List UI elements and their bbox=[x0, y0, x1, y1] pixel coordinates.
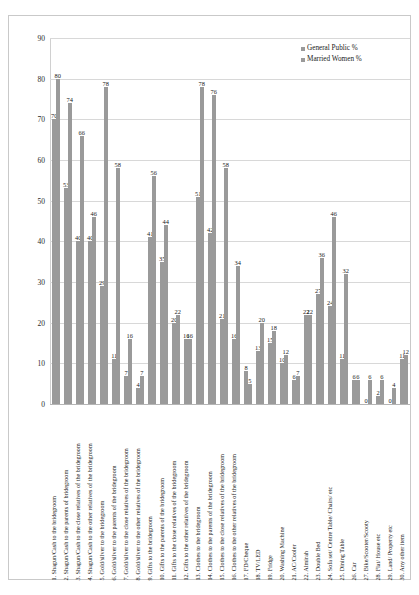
y-axis-tick-label: 70 bbox=[38, 115, 46, 124]
bar-value-label: 74 bbox=[67, 96, 73, 103]
category-label: 29. Land/ Property etc bbox=[388, 526, 395, 581]
category-label: 14. Clothes to the parents of the brideg… bbox=[208, 472, 215, 581]
bar-value-label: 34 bbox=[235, 259, 241, 266]
bar: 58 bbox=[224, 168, 228, 404]
bar: 44 bbox=[164, 225, 168, 404]
bar-value-label: 44 bbox=[163, 218, 169, 225]
bar: 16 bbox=[128, 339, 132, 404]
bar-group: 47 bbox=[134, 38, 146, 404]
bar-group: 85 bbox=[242, 38, 254, 404]
bar-group: 66 bbox=[350, 38, 362, 404]
bar: 12 bbox=[404, 355, 408, 404]
category-label: 20. Washing Machine bbox=[280, 527, 287, 581]
bar-group: 2022 bbox=[170, 38, 182, 404]
category-label: 23. Double Bed bbox=[316, 542, 323, 581]
bar: 78 bbox=[200, 87, 204, 404]
bar: 6 bbox=[368, 380, 372, 404]
bar-group: 1616 bbox=[182, 38, 194, 404]
bar-value-label: 4 bbox=[392, 381, 395, 388]
category-label: 18. TV/LED bbox=[256, 550, 263, 581]
bar-group: 4156 bbox=[146, 38, 158, 404]
bar-value-label: 46 bbox=[91, 210, 97, 217]
gridline bbox=[50, 404, 410, 405]
category-label: 13. Clothes to the bridegroom bbox=[196, 507, 203, 581]
category-label: 9. Gifts to the bridegroom bbox=[148, 517, 155, 581]
category-label: 16. Clothes to the other relatives of th… bbox=[232, 454, 239, 581]
bar-value-label: 58 bbox=[223, 161, 229, 168]
bar-group: 5374 bbox=[62, 38, 74, 404]
bar-value-label: 76 bbox=[211, 88, 217, 95]
bar-group: 4046 bbox=[86, 38, 98, 404]
category-labels: 1. Shagun/Cash to the bridegroom2. Shagu… bbox=[50, 406, 410, 581]
bar-group: 26 bbox=[374, 38, 386, 404]
bar: 58 bbox=[116, 168, 120, 404]
category-label: 5. Gold/silver to the bridegroom bbox=[100, 501, 107, 581]
chart-page: General Public % Married Women % 0102030… bbox=[0, 0, 419, 595]
bar: 76 bbox=[212, 95, 216, 404]
y-axis-tick-label: 20 bbox=[38, 318, 46, 327]
bar: 6 bbox=[356, 380, 360, 404]
category-label: 27. Bike/Scooter/Scooty bbox=[364, 521, 371, 582]
bar: 32 bbox=[344, 274, 348, 404]
bar-group: 04 bbox=[386, 38, 398, 404]
category-label: 10. Gifts to the parents of the bridegro… bbox=[160, 478, 167, 581]
bar-value-label: 22 bbox=[307, 308, 313, 315]
bar: 18 bbox=[272, 331, 276, 404]
bar: 66 bbox=[80, 136, 84, 404]
bar-value-label: 46 bbox=[331, 210, 337, 217]
bar-value-label: 5 bbox=[248, 377, 251, 384]
bar-group: 4066 bbox=[74, 38, 86, 404]
bar-value-label: 7 bbox=[140, 369, 143, 376]
bar-group: 716 bbox=[122, 38, 134, 404]
category-label: 8. Gold/silver to the other relatives of… bbox=[136, 449, 143, 581]
y-axis-tick-label: 40 bbox=[38, 237, 46, 246]
bar-group: 1132 bbox=[338, 38, 350, 404]
bar-group: 2978 bbox=[98, 38, 110, 404]
bar-group: 5178 bbox=[194, 38, 206, 404]
bar: 36 bbox=[320, 258, 324, 404]
category-label: 21. AC/Cooler bbox=[292, 545, 299, 581]
bar-series-container: 7080537440664046297811587164741563544202… bbox=[50, 38, 410, 404]
category-label: 25. Dining Table bbox=[340, 539, 347, 581]
bar-group: 06 bbox=[362, 38, 374, 404]
bar: 12 bbox=[284, 355, 288, 404]
bar: 22 bbox=[308, 315, 312, 404]
bar-value-label: 16 bbox=[187, 332, 193, 339]
y-axis-tick-label: 10 bbox=[38, 359, 46, 368]
bar-value-label: 6 bbox=[368, 373, 371, 380]
bar: 7 bbox=[296, 376, 300, 404]
category-label: 17. FD/Cheque bbox=[244, 543, 251, 581]
category-label: 30. Any other item bbox=[400, 535, 407, 581]
chart-frame: General Public % Married Women % 0102030… bbox=[8, 15, 411, 580]
category-label: 24. Sofa set/ Centre Table/ Chairs/ etc bbox=[328, 487, 335, 581]
bar-group: 4276 bbox=[206, 38, 218, 404]
y-axis-tick-label: 90 bbox=[38, 34, 46, 43]
bar-value-label: 12 bbox=[283, 348, 289, 355]
bar-group: 1634 bbox=[230, 38, 242, 404]
bar-value-label: 22 bbox=[175, 308, 181, 315]
bar-value-label: 32 bbox=[343, 267, 349, 274]
bar-value-label: 58 bbox=[115, 161, 121, 168]
bar-value-label: 6 bbox=[380, 373, 383, 380]
bar-group: 1158 bbox=[110, 38, 122, 404]
y-axis-tick-label: 60 bbox=[38, 156, 46, 165]
bar-value-label: 78 bbox=[103, 80, 109, 87]
bar: 6 bbox=[380, 380, 384, 404]
bar: 22 bbox=[176, 315, 180, 404]
category-label: 12. Gifts to the other relatives of the … bbox=[184, 461, 191, 581]
category-label: 7. Gold/silver to the close relatives of… bbox=[124, 449, 131, 581]
y-axis-tick-label: 0 bbox=[41, 400, 45, 409]
bar-value-label: 7 bbox=[296, 369, 299, 376]
bar: 20 bbox=[260, 323, 264, 404]
bar-group: 2158 bbox=[218, 38, 230, 404]
category-label: 2. Shagun/Cash to the parents of bridegr… bbox=[64, 470, 71, 581]
bar-value-label: 8 bbox=[245, 364, 248, 371]
category-label: 1. Shagun/Cash to the bridegroom bbox=[52, 496, 59, 581]
category-label: 3. Shagun/Cash to the close relatives of… bbox=[76, 444, 83, 581]
bar: 80 bbox=[56, 79, 60, 404]
bar: 78 bbox=[104, 87, 108, 404]
category-label: 11. Gifts to the close relatives of the … bbox=[172, 461, 179, 581]
bar: 56 bbox=[152, 176, 156, 404]
bar-group: 67 bbox=[290, 38, 302, 404]
bar: 5 bbox=[248, 384, 252, 404]
